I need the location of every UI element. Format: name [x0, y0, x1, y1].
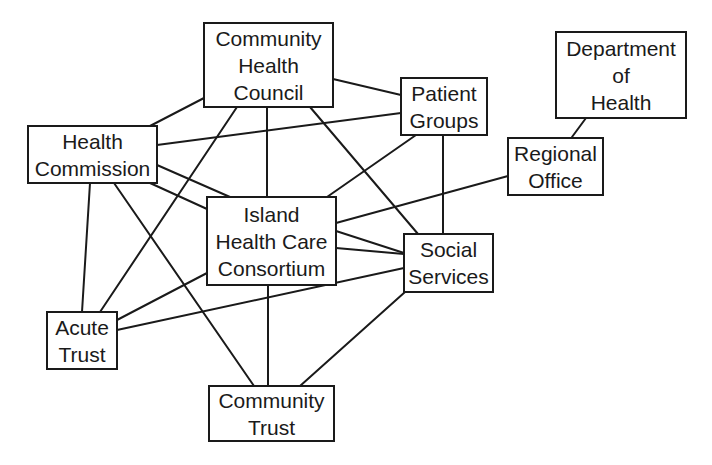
edge-chc-patient [333, 79, 401, 95]
node-label-line: Trust [58, 341, 105, 368]
node-label-line: of [612, 62, 630, 89]
node-label-line: Trust [248, 414, 295, 441]
node-label-line: Patient [411, 80, 476, 107]
node-social-services: Social Services [403, 233, 494, 293]
node-label-line: Consortium [218, 255, 325, 282]
edge-doh-regional [572, 118, 586, 137]
node-label-line: Social [420, 236, 477, 263]
node-health-commission: Health Commission [27, 125, 158, 184]
node-regional-office: Regional Office [507, 137, 604, 196]
node-label-line: Community [218, 387, 324, 414]
edge-hcomm-patient [157, 113, 401, 145]
node-department-of-health: Department of Health [555, 31, 687, 119]
node-label-line: Health Care [215, 228, 327, 255]
network-diagram: Community Health Council Patient Groups … [0, 0, 712, 465]
node-label-line: Health [238, 52, 299, 79]
edge-patient-island [327, 135, 416, 197]
node-acute-trust: Acute Trust [46, 311, 118, 370]
edge-hcomm-acute [82, 183, 90, 312]
edge-chc-hcomm [150, 98, 204, 126]
edge-social-ctrust [300, 292, 405, 386]
node-label-line: Community [215, 25, 321, 52]
node-label-line: Groups [410, 107, 479, 134]
node-community-health-council: Community Health Council [203, 22, 334, 108]
node-label-line: Services [408, 263, 489, 290]
node-label-line: Island [243, 201, 299, 228]
node-label-line: Regional [514, 140, 597, 167]
node-label-line: Health [62, 128, 123, 155]
node-label-line: Office [528, 167, 582, 194]
edge-regional-island [336, 176, 508, 223]
node-label-line: Acute [55, 314, 109, 341]
node-island-health-care-consortium: Island Health Care Consortium [206, 196, 337, 286]
node-patient-groups: Patient Groups [400, 77, 488, 136]
node-label-line: Department [566, 35, 676, 62]
node-label-line: Council [233, 79, 303, 106]
node-community-trust: Community Trust [208, 385, 335, 442]
node-label-line: Health [591, 89, 652, 116]
node-label-line: Commission [35, 155, 151, 182]
edge-hcomm-island-b [150, 183, 207, 209]
